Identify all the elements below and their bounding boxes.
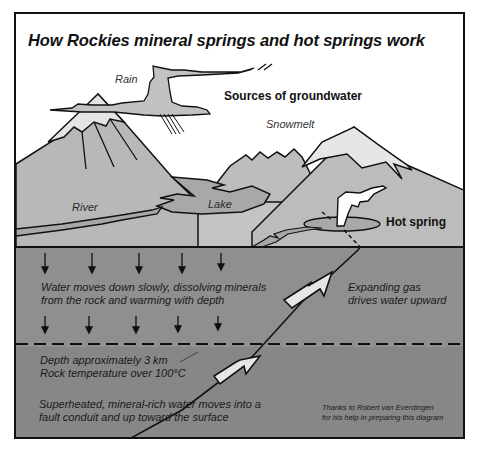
credit-line: for his help in preparing this diagram [322,413,443,423]
label-hot-spring: Hot spring [386,215,446,229]
annotation-superheated: Superheated, mineral-rich water moves in… [39,398,261,424]
annotation-expanding-gas: Expanding gas drives water upward [348,281,446,307]
annotation-line: Depth approximately 3 km [40,354,186,367]
diagram-frame: How Rockies mineral springs and hot spri… [14,12,465,439]
annotation-line: drives water upward [348,294,446,307]
annotation-line: Expanding gas [348,281,446,294]
annotation-line: Water moves down slowly, dissolving mine… [41,281,266,294]
annotation-line: fault conduit and up toward the surface [39,411,261,424]
label-sources-of-groundwater: Sources of groundwater [224,89,362,103]
annotation-water-down: Water moves down slowly, dissolving mine… [41,281,266,307]
annotation-line: Rock temperature over 100°C [40,367,186,380]
annotation-line: from the rock and warming with depth [41,294,266,307]
credit-line: Thanks to Robert van Everdingen [322,403,443,413]
credit-note: Thanks to Robert van Everdingen for his … [322,403,443,423]
label-lake: Lake [208,198,232,210]
annotation-line: Superheated, mineral-rich water moves in… [39,398,261,411]
label-river: River [72,201,98,213]
label-rain: Rain [115,73,138,85]
annotation-depth: Depth approximately 3 km Rock temperatur… [40,354,186,380]
diagram-title: How Rockies mineral springs and hot spri… [28,31,425,50]
label-snowmelt: Snowmelt [266,118,314,130]
